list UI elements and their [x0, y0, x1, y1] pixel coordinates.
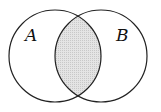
set-b-label: B	[115, 25, 129, 45]
set-a-label: A	[23, 25, 37, 45]
venn-diagram: A B	[0, 0, 161, 112]
